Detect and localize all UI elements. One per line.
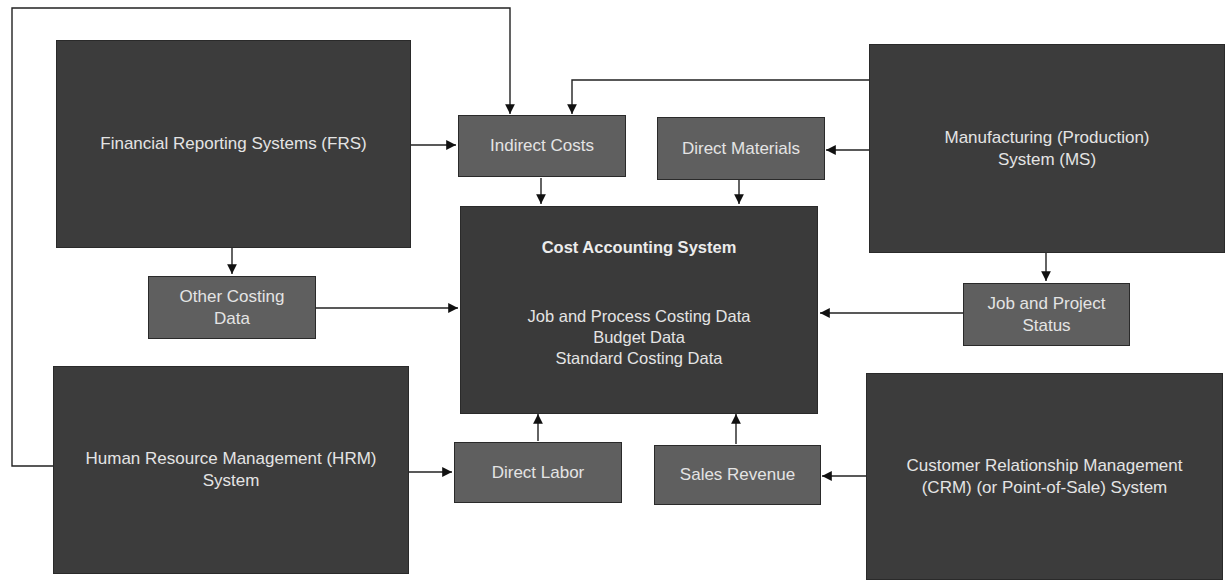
system-ms: Manufacturing (Production) System (MS) bbox=[869, 44, 1225, 253]
system-hrm: Human Resource Management (HRM) System bbox=[53, 366, 409, 574]
central-line-standard: Standard Costing Data bbox=[556, 348, 723, 369]
central-line-budget: Budget Data bbox=[593, 327, 685, 348]
system-ms-label-line1: Manufacturing (Production) bbox=[944, 127, 1149, 149]
job-project-label-line1: Job and Project bbox=[987, 293, 1105, 315]
data-direct-materials: Direct Materials bbox=[657, 117, 825, 180]
data-sales-revenue: Sales Revenue bbox=[654, 445, 821, 505]
data-indirect-costs: Indirect Costs bbox=[458, 115, 626, 177]
cost-accounting-title: Cost Accounting System bbox=[542, 237, 737, 258]
system-frs: Financial Reporting Systems (FRS) bbox=[56, 40, 411, 248]
data-direct-labor: Direct Labor bbox=[454, 442, 622, 503]
system-crm-label-line2: (CRM) (or Point-of-Sale) System bbox=[922, 477, 1168, 499]
indirect-costs-label: Indirect Costs bbox=[490, 135, 594, 157]
system-ms-label-line2: System (MS) bbox=[998, 149, 1096, 171]
system-crm: Customer Relationship Management (CRM) (… bbox=[866, 373, 1223, 580]
other-costing-label-line1: Other Costing bbox=[180, 286, 285, 308]
direct-materials-label: Direct Materials bbox=[682, 138, 800, 160]
data-job-project-status: Job and Project Status bbox=[963, 283, 1130, 346]
system-hrm-label-line2: System bbox=[203, 470, 260, 492]
system-hrm-label-line1: Human Resource Management (HRM) bbox=[86, 448, 377, 470]
system-crm-label-line1: Customer Relationship Management bbox=[907, 455, 1183, 477]
system-frs-label: Financial Reporting Systems (FRS) bbox=[100, 133, 366, 155]
cost-accounting-system: Cost Accounting System Job and Process C… bbox=[460, 206, 818, 414]
other-costing-label-line2: Data bbox=[214, 308, 250, 330]
direct-labor-label: Direct Labor bbox=[492, 462, 585, 484]
sales-revenue-label: Sales Revenue bbox=[680, 464, 795, 486]
data-other-costing: Other Costing Data bbox=[148, 276, 316, 339]
central-line-job-process: Job and Process Costing Data bbox=[528, 306, 751, 327]
job-project-label-line2: Status bbox=[1022, 315, 1070, 337]
